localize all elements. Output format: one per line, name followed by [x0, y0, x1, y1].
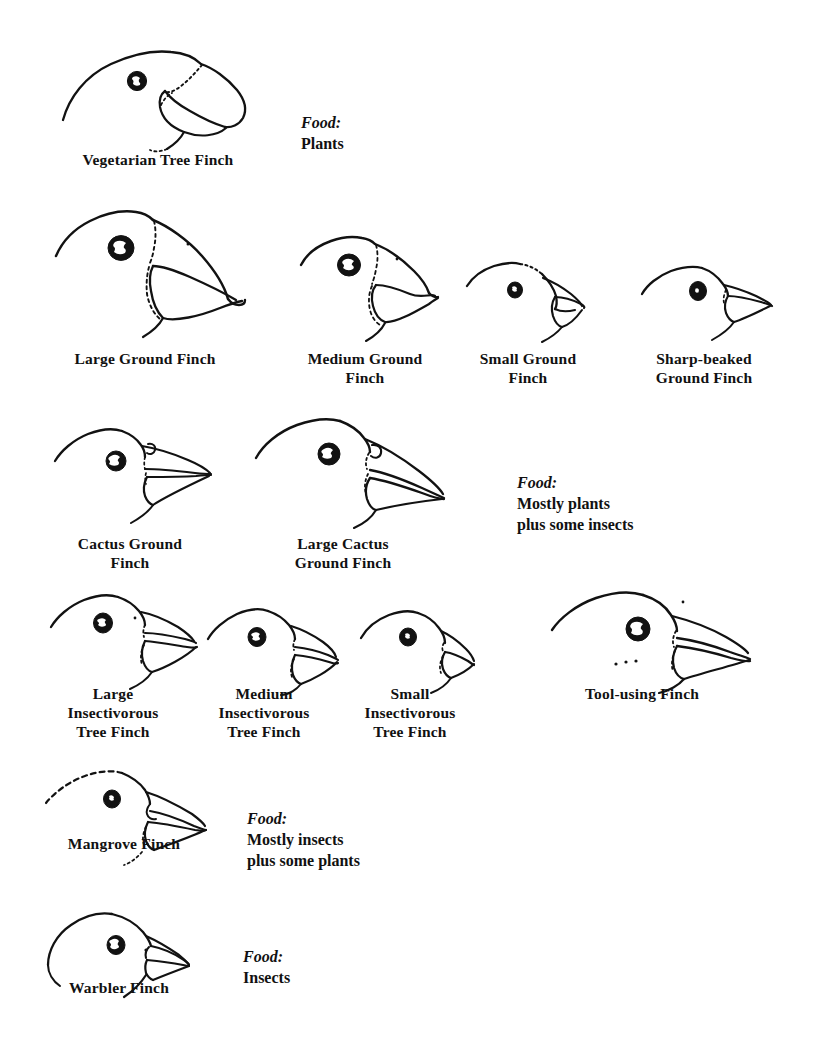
finch-drawing-small-ground-finch [463, 256, 588, 344]
food-prefix: Food: [243, 948, 283, 965]
food-value: Mostly plants plus some insects [517, 495, 633, 533]
finch-drawing-large-insectivorous-tree-finch [48, 589, 198, 689]
label-warbler-finch: Warbler Finch [69, 978, 169, 997]
finch-drawing-vegetarian-tree-finch [55, 28, 270, 148]
food-value: Mostly insects plus some plants [247, 831, 360, 869]
label-medium-insectivorous-tree-finch: Medium Insectivorous Tree Finch [218, 684, 309, 741]
finch-drawing-cactus-ground-finch [52, 419, 217, 524]
finch-drawing-large-cactus-ground-finch [252, 410, 452, 528]
food-note-mostly-insects: Food: Mostly insects plus some plants [247, 787, 360, 871]
food-prefix: Food: [247, 810, 287, 827]
finch-drawing-medium-insectivorous-tree-finch [205, 603, 340, 695]
food-note-insects: Food: Insects [243, 925, 290, 988]
finch-drawing-tool-using-finch [548, 588, 753, 693]
label-mangrove-finch: Mangrove Finch [68, 834, 180, 853]
label-small-ground-finch: Small Ground Finch [480, 349, 576, 387]
label-vegetarian-tree-finch: Vegetarian Tree Finch [83, 150, 234, 169]
label-large-ground-finch: Large Ground Finch [74, 349, 215, 368]
label-large-cactus-ground-finch: Large Cactus Ground Finch [295, 534, 391, 572]
label-cactus-ground-finch: Cactus Ground Finch [78, 534, 182, 572]
label-small-insectivorous-tree-finch: Small Insectivorous Tree Finch [364, 684, 455, 741]
food-note-mostly-plants: Food: Mostly plants plus some insects [517, 451, 633, 535]
food-note-plants: Food: Plants [301, 91, 344, 154]
label-large-insectivorous-tree-finch: Large Insectivorous Tree Finch [67, 684, 158, 741]
food-prefix: Food: [301, 114, 341, 131]
label-tool-using-finch: Tool-using Finch [585, 684, 699, 703]
finch-drawing-small-insectivorous-tree-finch [358, 604, 476, 694]
label-medium-ground-finch: Medium Ground Finch [308, 349, 423, 387]
food-value: Insects [243, 969, 290, 986]
finch-drawing-large-ground-finch [50, 204, 260, 339]
food-prefix: Food: [517, 474, 557, 491]
finch-drawing-medium-ground-finch [298, 233, 453, 341]
finch-drawing-sharp-beaked-ground-finch [638, 258, 778, 344]
label-sharp-beaked-ground-finch: Sharp-beaked Ground Finch [656, 349, 752, 387]
food-value: Plants [301, 135, 344, 152]
darwins-finches-figure: Vegetarian Tree Finch Food: Plants Large… [0, 0, 820, 1049]
